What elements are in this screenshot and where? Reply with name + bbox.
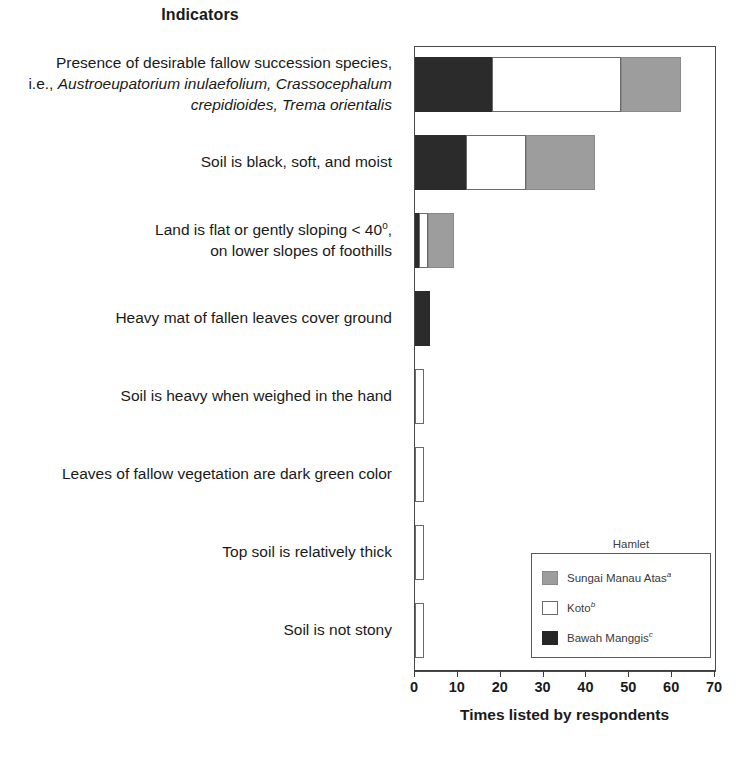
- category-label: Soil is not stony: [10, 619, 392, 640]
- x-tick: [585, 670, 586, 677]
- x-tick-label: 40: [565, 679, 605, 695]
- label-text: Soil is not stony: [283, 621, 392, 638]
- bar-segment: [415, 291, 430, 346]
- label-text: on lower slopes of foothills: [210, 242, 392, 259]
- x-tick: [543, 670, 544, 677]
- legend-label: Kotob: [567, 602, 595, 614]
- category-label: Leaves of fallow vegetation are dark gre…: [10, 463, 392, 484]
- category-label: Top soil is relatively thick: [10, 541, 392, 562]
- bar-segment: [466, 135, 526, 190]
- label-text: Soil is black, soft, and moist: [201, 153, 392, 170]
- bar-segment: [428, 213, 454, 268]
- category-label: Heavy mat of fallen leaves cover ground: [10, 307, 392, 328]
- x-tick: [457, 670, 458, 677]
- legend-item[interactable]: Bawah Manggisc: [542, 623, 702, 653]
- label-text: Presence of desirable fallow succession …: [56, 54, 392, 71]
- legend-swatch-icon: [542, 601, 558, 615]
- x-axis-title: Times listed by respondents: [414, 706, 715, 724]
- label-text: Austroeupatorium inulaefolium, Crassocep…: [58, 75, 392, 92]
- label-text: Heavy mat of fallen leaves cover ground: [115, 309, 392, 326]
- x-tick: [500, 670, 501, 677]
- x-tick: [628, 670, 629, 677]
- bar-stack: [415, 447, 424, 502]
- label-text: Leaves of fallow vegetation are dark gre…: [62, 465, 392, 482]
- legend-footnote-marker: c: [649, 630, 653, 639]
- x-tick: [671, 670, 672, 677]
- bar-segment: [415, 447, 424, 502]
- bar-stack: [415, 57, 681, 112]
- legend-swatch-icon: [542, 571, 558, 585]
- bar-segment: [621, 57, 681, 112]
- x-tick-label: 60: [651, 679, 691, 695]
- label-text: ,: [388, 221, 392, 238]
- category-label: Presence of desirable fallow succession …: [10, 52, 392, 115]
- bar-segment: [526, 135, 595, 190]
- figure-chart: Indicators Presence of desirable fallow …: [0, 0, 752, 763]
- category-label: Soil is black, soft, and moist: [10, 151, 392, 172]
- bar-stack: [415, 213, 454, 268]
- bar-segment: [415, 57, 492, 112]
- bar-segment: [415, 603, 424, 658]
- legend: Sungai Manau AtasaKotobBawah Manggisc: [531, 553, 711, 658]
- label-text: Soil is heavy when weighed in the hand: [121, 387, 392, 404]
- label-text: crepidioides, Trema orientalis: [191, 96, 392, 113]
- x-tick-label: 30: [523, 679, 563, 695]
- x-tick-label: 20: [480, 679, 520, 695]
- category-label: Land is flat or gently sloping < 40o,on …: [10, 219, 392, 261]
- x-tick-label: 70: [694, 679, 734, 695]
- x-tick-label: 50: [608, 679, 648, 695]
- x-tick-label: 10: [437, 679, 477, 695]
- x-tick: [714, 670, 715, 677]
- label-text: Top soil is relatively thick: [222, 543, 392, 560]
- label-text: i.e.,: [28, 75, 57, 92]
- bar-stack: [415, 291, 430, 346]
- legend-label: Sungai Manau Atasa: [567, 572, 671, 584]
- page-title: Indicators: [0, 6, 400, 24]
- category-label: Soil is heavy when weighed in the hand: [10, 385, 392, 406]
- bar-segment: [419, 213, 428, 268]
- bar-segment: [492, 57, 621, 112]
- x-tick-label: 0: [394, 679, 434, 695]
- x-axis-line: [414, 670, 715, 671]
- bar-stack: [415, 369, 424, 424]
- legend-label: Bawah Manggisc: [567, 632, 653, 644]
- bar-stack: [415, 525, 424, 580]
- label-text: Land is flat or gently sloping < 40: [155, 221, 382, 238]
- bar-stack: [415, 135, 595, 190]
- bar-segment: [415, 135, 466, 190]
- legend-item[interactable]: Sungai Manau Atasa: [542, 563, 702, 593]
- category-labels-column: Presence of desirable fallow succession …: [10, 46, 402, 666]
- bar-stack: [415, 603, 424, 658]
- legend-item[interactable]: Kotob: [542, 593, 702, 623]
- bar-segment: [415, 525, 424, 580]
- legend-footnote-marker: b: [591, 600, 595, 609]
- x-tick: [414, 670, 415, 677]
- legend-footnote-marker: a: [667, 570, 671, 579]
- legend-swatch-icon: [542, 631, 558, 645]
- bar-segment: [415, 369, 424, 424]
- legend-title: Hamlet: [556, 538, 706, 550]
